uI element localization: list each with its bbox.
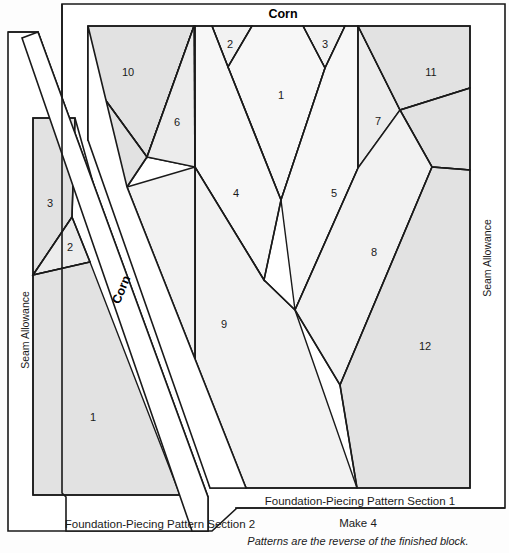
label-s1-11: 11 bbox=[425, 66, 436, 78]
label-s2-2: 2 bbox=[67, 241, 73, 253]
section1-caption: Foundation-Piecing Pattern Section 1 bbox=[265, 495, 456, 507]
label-s1-10: 10 bbox=[122, 66, 134, 78]
label-s1-8: 8 bbox=[371, 246, 377, 258]
seam-allowance-left-label: Seam Allowance bbox=[19, 291, 31, 369]
label-s1-12: 12 bbox=[419, 340, 431, 352]
label-s1-6: 6 bbox=[174, 116, 180, 128]
label-s1-7: 7 bbox=[375, 115, 381, 127]
label-s2-3: 3 bbox=[47, 197, 53, 209]
make-note: Make 4 bbox=[339, 517, 377, 529]
label-s1-1: 1 bbox=[278, 89, 284, 101]
label-s1-3: 3 bbox=[322, 38, 328, 50]
label-s1-5: 5 bbox=[331, 187, 337, 199]
label-s1-2: 2 bbox=[227, 38, 233, 50]
section2-caption: Foundation-Piecing Pattern Section 2 bbox=[65, 518, 256, 530]
seam-allowance-right-label: Seam Allowance bbox=[481, 219, 493, 297]
label-s2-1: 1 bbox=[90, 411, 96, 423]
foundation-piecing-diagram: Corn Corn Seam Allowance Seam Allowance … bbox=[0, 0, 509, 553]
label-s1-9: 9 bbox=[221, 318, 227, 330]
pattern-page: Corn Corn Seam Allowance Seam Allowance … bbox=[0, 0, 509, 553]
label-s1-4: 4 bbox=[233, 187, 239, 199]
title-corn-top: Corn bbox=[268, 7, 297, 21]
reverse-note: Patterns are the reverse of the finished… bbox=[247, 535, 468, 547]
